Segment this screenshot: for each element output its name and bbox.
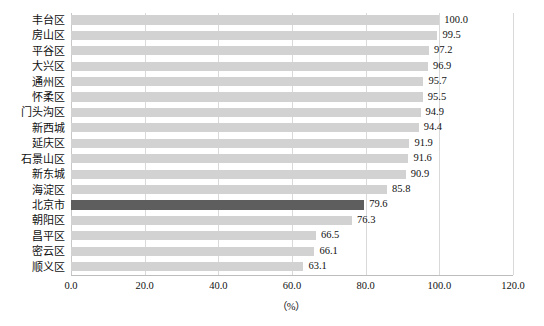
category-label-海淀区: 海淀区 [32, 183, 65, 198]
bar-value-label: 99.5 [442, 28, 460, 43]
bar-row: 90.9 [71, 167, 513, 182]
bar-丰台区 [71, 15, 439, 24]
category-axis-labels: 丰台区房山区平谷区大兴区通州区怀柔区门头沟区新西城延庆区石景山区新东城海淀区北京… [0, 13, 68, 275]
bar-row: 99.5 [71, 28, 513, 43]
x-tick-label-60.0: 60.0 [283, 278, 301, 294]
bar-昌平区 [71, 231, 316, 240]
bar-value-label: 96.9 [433, 59, 451, 74]
category-label-怀柔区: 怀柔区 [32, 90, 65, 105]
plot-area: 100.099.597.296.995.795.594.994.491.991.… [71, 13, 513, 275]
bar-海淀区 [71, 185, 387, 194]
bar-value-label: 94.9 [426, 105, 444, 120]
bar-门头沟区 [71, 108, 421, 117]
bar-北京市 [71, 200, 364, 209]
bar-value-label: 91.6 [413, 151, 431, 166]
bar-row: 100.0 [71, 13, 513, 28]
bar-row: 63.1 [71, 260, 513, 275]
bar-row: 91.9 [71, 136, 513, 151]
bar-value-label: 66.5 [321, 228, 339, 243]
bar-value-label: 95.7 [428, 74, 446, 89]
bar-平谷区 [71, 46, 429, 55]
bar-row: 79.6 [71, 198, 513, 213]
category-label-顺义区: 顺义区 [32, 260, 65, 275]
bar-怀柔区 [71, 92, 423, 101]
bar-value-label: 95.5 [428, 90, 446, 105]
bar-房山区 [71, 31, 437, 40]
category-label-延庆区: 延庆区 [32, 136, 65, 151]
bar-value-label: 66.1 [319, 244, 337, 259]
x-axis-ticks: 0.020.040.060.080.0100.0120.0 [71, 278, 513, 294]
gridline-120.0 [513, 13, 514, 275]
category-label-新东城: 新东城 [32, 167, 65, 182]
category-label-丰台区: 丰台区 [32, 13, 65, 28]
x-tick-label-40.0: 40.0 [209, 278, 227, 294]
bar-通州区 [71, 77, 423, 86]
category-label-房山区: 房山区 [32, 28, 65, 43]
category-label-北京市: 北京市 [32, 198, 65, 213]
bar-value-label: 76.3 [357, 213, 375, 228]
category-label-密云区: 密云区 [32, 244, 65, 259]
bar-value-label: 91.9 [414, 136, 432, 151]
category-label-新西城: 新西城 [32, 121, 65, 136]
bar-row: 94.9 [71, 105, 513, 120]
x-tick-label-80.0: 80.0 [356, 278, 374, 294]
bar-朝阳区 [71, 216, 352, 225]
x-tick-label-120.0: 120.0 [501, 278, 525, 294]
bar-value-label: 63.1 [308, 259, 326, 274]
category-label-门头沟区: 门头沟区 [21, 105, 65, 120]
bar-row: 76.3 [71, 213, 513, 228]
bar-row: 94.4 [71, 121, 513, 136]
x-axis-unit-text: （%） [277, 301, 306, 312]
category-label-石景山区: 石景山区 [21, 152, 65, 167]
bar-value-label: 100.0 [444, 13, 468, 28]
x-tick-label-20.0: 20.0 [135, 278, 153, 294]
x-tick-label-100.0: 100.0 [428, 278, 452, 294]
bar-row: 66.5 [71, 229, 513, 244]
bar-大兴区 [71, 62, 428, 71]
bar-row: 95.7 [71, 75, 513, 90]
bar-密云区 [71, 247, 314, 256]
bar-新西城 [71, 123, 419, 132]
bar-chart: 丰台区房山区平谷区大兴区通州区怀柔区门头沟区新西城延庆区石景山区新东城海淀区北京… [0, 0, 544, 326]
bar-row: 66.1 [71, 244, 513, 259]
category-label-昌平区: 昌平区 [32, 229, 65, 244]
bar-新东城 [71, 170, 406, 179]
bar-value-label: 90.9 [411, 167, 429, 182]
x-axis-line [71, 275, 513, 276]
bar-value-label: 79.6 [369, 197, 387, 212]
bar-value-label: 97.2 [434, 43, 452, 58]
bar-石景山区 [71, 154, 408, 163]
x-tick-label-0.0: 0.0 [64, 278, 77, 294]
bar-row: 95.5 [71, 90, 513, 105]
x-axis-unit-label: （%） [0, 298, 544, 313]
bar-value-label: 85.8 [392, 182, 410, 197]
bar-row: 96.9 [71, 59, 513, 74]
bar-row: 85.8 [71, 183, 513, 198]
bar-row: 97.2 [71, 44, 513, 59]
bar-value-label: 94.4 [424, 120, 442, 135]
category-label-大兴区: 大兴区 [32, 59, 65, 74]
category-label-通州区: 通州区 [32, 75, 65, 90]
bar-row: 91.6 [71, 152, 513, 167]
bar-顺义区 [71, 262, 303, 271]
category-label-平谷区: 平谷区 [32, 44, 65, 59]
bar-延庆区 [71, 139, 409, 148]
bar-rows: 100.099.597.296.995.795.594.994.491.991.… [71, 13, 513, 275]
category-label-朝阳区: 朝阳区 [32, 213, 65, 228]
